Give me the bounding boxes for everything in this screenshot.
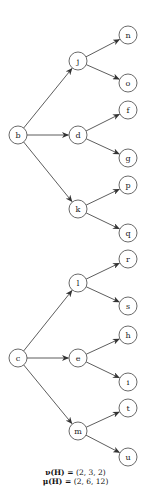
node-label: r (126, 255, 130, 264)
tree-diagram: bjdknofgpqclemrshitu (0, 0, 151, 497)
node-h: h (119, 326, 137, 344)
edge-j-o (86, 65, 119, 80)
node-label: l (77, 279, 80, 288)
node-label: q (125, 229, 130, 238)
node-i: i (119, 373, 137, 391)
node-k: k (69, 200, 87, 218)
node-n: n (119, 26, 137, 44)
edge-k-q (86, 213, 119, 229)
node-label: i (127, 378, 130, 387)
node-label: b (15, 131, 20, 140)
node-label: u (125, 453, 130, 462)
node-e: e (69, 349, 87, 367)
node-label: o (126, 79, 131, 88)
node-p: p (119, 176, 137, 194)
node-r: r (119, 250, 137, 268)
edge-e-h (86, 339, 119, 354)
node-label: e (76, 354, 81, 363)
node-label: k (76, 205, 81, 214)
edge-d-f (86, 114, 119, 131)
mu-label: μ(H) = (43, 477, 74, 486)
node-j: j (69, 52, 87, 70)
node-l: l (69, 274, 87, 292)
node-s: s (119, 297, 137, 315)
node-label: c (16, 354, 21, 363)
node-label: d (75, 131, 80, 140)
node-label: j (76, 57, 79, 66)
node-label: p (125, 181, 130, 190)
mu-formula: μ(H) = (2, 6, 12) (0, 477, 151, 486)
node-d: d (69, 126, 87, 144)
edge-l-r (86, 263, 119, 279)
node-f: f (119, 101, 137, 119)
node-t: t (119, 399, 137, 417)
node-label: s (126, 302, 130, 311)
nu-label: ν(H) = (45, 468, 76, 477)
edge-e-i (86, 362, 119, 378)
edge-l-s (86, 287, 119, 302)
mu-value: (2, 6, 12) (74, 477, 108, 486)
edge-d-g (86, 139, 119, 154)
node-b: b (9, 126, 27, 144)
node-label: h (125, 331, 130, 340)
nu-formula: ν(H) = (2, 3, 2) (0, 468, 151, 477)
edge-j-n (86, 39, 120, 56)
node-label: m (74, 427, 82, 436)
edges-layer (24, 39, 120, 452)
edge-b-j (24, 68, 72, 128)
edge-c-l (24, 290, 72, 351)
node-c: c (9, 349, 27, 367)
node-g: g (119, 149, 137, 167)
nu-value: (2, 3, 2) (76, 468, 106, 477)
node-o: o (119, 74, 137, 92)
node-q: q (119, 224, 137, 242)
node-u: u (119, 448, 137, 466)
nodes-layer: bjdknofgpqclemrshitu (9, 26, 137, 466)
edge-b-k (24, 142, 72, 202)
edge-c-m (24, 365, 72, 424)
node-label: n (125, 31, 130, 40)
edge-m-u (86, 435, 120, 452)
edge-m-t (86, 412, 119, 427)
node-label: g (125, 154, 130, 163)
node-m: m (69, 422, 87, 440)
edge-k-p (86, 189, 119, 205)
